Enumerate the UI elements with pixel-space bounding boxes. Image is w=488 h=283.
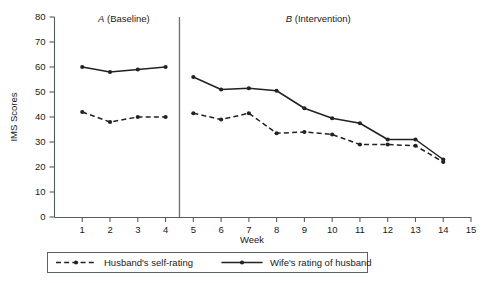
x-tick-label: 4 bbox=[163, 224, 168, 235]
y-tick-label: 20 bbox=[35, 161, 46, 172]
data-point-marker bbox=[247, 111, 251, 115]
data-point-marker bbox=[302, 106, 306, 110]
y-tick-label: 30 bbox=[35, 136, 46, 147]
data-point-marker bbox=[275, 89, 279, 93]
x-tick-label: 5 bbox=[191, 224, 196, 235]
data-point-marker bbox=[163, 115, 167, 119]
data-point-marker bbox=[80, 65, 84, 69]
series-wife bbox=[80, 65, 445, 162]
series-path-segment-a bbox=[82, 112, 165, 122]
data-point-marker bbox=[441, 157, 445, 161]
series-group bbox=[80, 65, 445, 164]
data-point-marker bbox=[136, 115, 140, 119]
x-tick-label: 8 bbox=[274, 224, 279, 235]
y-axis-ticks bbox=[50, 17, 55, 217]
x-tick-label: 11 bbox=[355, 224, 365, 235]
series-path-segment-b bbox=[193, 77, 443, 160]
legend-marker-dashed bbox=[74, 260, 78, 264]
x-tick-label: 14 bbox=[438, 224, 449, 235]
data-point-marker bbox=[330, 132, 334, 136]
x-axis-title: Week bbox=[240, 234, 264, 245]
data-point-marker bbox=[191, 111, 195, 115]
phase-a-letter: A bbox=[97, 13, 104, 24]
data-point-marker bbox=[330, 116, 334, 120]
x-tick-label: 1 bbox=[80, 224, 85, 235]
x-tick-label: 12 bbox=[382, 224, 393, 235]
y-axis-title: IMS Scores bbox=[8, 92, 19, 141]
data-point-marker bbox=[275, 131, 279, 135]
legend-marker-solid bbox=[240, 260, 244, 264]
legend-label-wife: Wife's rating of husband bbox=[270, 257, 372, 268]
data-point-marker bbox=[386, 137, 390, 141]
x-tick-label: 2 bbox=[107, 224, 112, 235]
data-point-marker bbox=[358, 121, 362, 125]
line-chart: 01020304050607080 123456789101112131415 … bbox=[0, 0, 488, 283]
phase-b-label: B (Intervention) bbox=[286, 13, 351, 24]
phase-a-rest: (Baseline) bbox=[104, 13, 149, 24]
x-tick-label: 13 bbox=[410, 224, 421, 235]
y-tick-label: 70 bbox=[35, 36, 46, 47]
data-point-marker bbox=[136, 67, 140, 71]
data-point-marker bbox=[386, 142, 390, 146]
series-path-segment-b bbox=[193, 113, 443, 162]
data-point-marker bbox=[302, 130, 306, 134]
y-axis-tick-labels: 01020304050607080 bbox=[35, 11, 46, 222]
x-tick-label: 6 bbox=[218, 224, 223, 235]
y-tick-label: 50 bbox=[35, 86, 46, 97]
data-point-marker bbox=[219, 117, 223, 121]
data-point-marker bbox=[163, 65, 167, 69]
data-point-marker bbox=[358, 142, 362, 146]
data-point-marker bbox=[247, 86, 251, 90]
x-tick-label: 10 bbox=[327, 224, 338, 235]
data-point-marker bbox=[413, 137, 417, 141]
data-point-marker bbox=[108, 70, 112, 74]
axes bbox=[55, 17, 472, 218]
y-tick-label: 40 bbox=[35, 111, 46, 122]
data-point-marker bbox=[191, 75, 195, 79]
legend: Husband's self-rating Wife's rating of h… bbox=[48, 253, 372, 273]
legend-label-husband: Husband's self-rating bbox=[104, 257, 193, 268]
phase-a-label: A (Baseline) bbox=[97, 13, 150, 24]
data-point-marker bbox=[80, 110, 84, 114]
x-tick-label: 3 bbox=[135, 224, 140, 235]
y-tick-label: 0 bbox=[40, 211, 45, 222]
data-point-marker bbox=[108, 120, 112, 124]
x-tick-label: 15 bbox=[466, 224, 477, 235]
phase-b-rest: (Intervention) bbox=[292, 13, 351, 24]
x-tick-label: 9 bbox=[302, 224, 307, 235]
y-tick-label: 10 bbox=[35, 186, 46, 197]
series-husband bbox=[80, 110, 445, 164]
chart-figure: 01020304050607080 123456789101112131415 … bbox=[0, 0, 488, 283]
series-path-segment-a bbox=[82, 67, 165, 72]
data-point-marker bbox=[413, 144, 417, 148]
y-tick-label: 60 bbox=[35, 61, 46, 72]
data-point-marker bbox=[219, 87, 223, 91]
x-axis-tick-labels: 123456789101112131415 bbox=[80, 224, 477, 235]
y-tick-label: 80 bbox=[35, 11, 46, 22]
